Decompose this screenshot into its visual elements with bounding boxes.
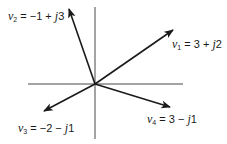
vector-label-v1: v1 = 3 + j2 [172, 38, 222, 54]
vector-arrow-v1 [95, 30, 173, 84]
vector-arrow-v3 [44, 84, 95, 111]
vector-label-v2: v2 = −1 + j3 [8, 10, 64, 26]
vector-label-v3: v3 = −2 − j1 [18, 122, 74, 138]
vector-arrow-v2 [69, 9, 95, 84]
vector-label-v4: v4 = 3 − j1 [147, 113, 197, 129]
vector-arrow-v4 [95, 84, 170, 107]
